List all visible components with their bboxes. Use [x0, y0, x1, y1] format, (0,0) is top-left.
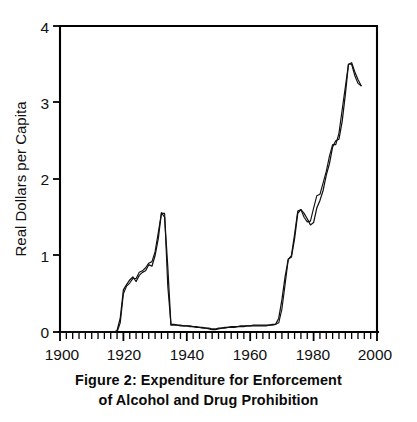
x-tick-label-1900: 1900: [45, 346, 80, 363]
y-tick-label-4: 4: [40, 19, 49, 36]
y-axis-title: Real Dollars per Capita: [12, 101, 29, 257]
y-tick-label-2: 2: [40, 171, 49, 188]
caption-line-2: of Alcohol and Drug Prohibition: [0, 390, 417, 410]
x-tick-label-1960: 1960: [233, 346, 268, 363]
chart-plot-area: 4 3 2 1 0 Real Dollars per Capita: [0, 0, 417, 372]
x-tick-label-1920: 1920: [107, 346, 142, 363]
line-chart: 4 3 2 1 0 Real Dollars per Capita: [0, 0, 417, 372]
figure-container: 4 3 2 1 0 Real Dollars per Capita: [0, 0, 417, 422]
y-tick-label-0: 0: [40, 324, 49, 341]
figure-caption: Figure 2: Expenditure for Enforcement of…: [0, 370, 417, 411]
x-tick-label-1940: 1940: [170, 346, 205, 363]
series-line-b: [60, 64, 361, 332]
x-tick-label-2000: 2000: [358, 346, 393, 363]
x-tick-label-1980: 1980: [296, 346, 331, 363]
y-tick-label-3: 3: [40, 95, 49, 112]
caption-line-1: Figure 2: Expenditure for Enforcement: [0, 370, 417, 390]
plot-frame: [60, 26, 377, 332]
y-tick-label-1: 1: [40, 248, 49, 265]
